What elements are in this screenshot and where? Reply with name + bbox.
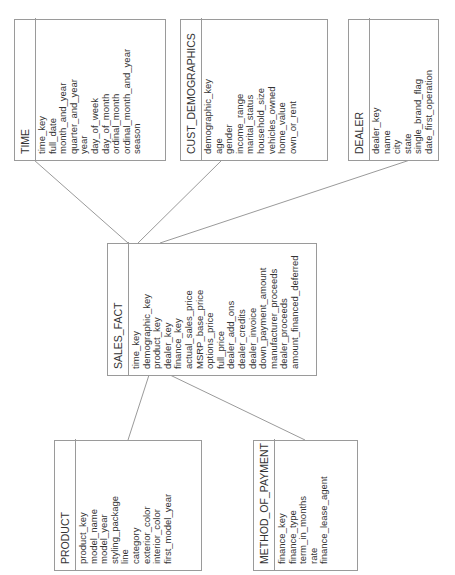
attribute: day_of_week xyxy=(90,18,101,154)
link-method-of-payment xyxy=(170,375,305,440)
attribute: name xyxy=(382,18,393,154)
attribute: product_key xyxy=(78,439,89,564)
link-cust-demographics xyxy=(138,160,222,243)
attribute: time_key xyxy=(37,18,48,154)
attribute-list: product_keymodel_namemodel_yearstyling_p… xyxy=(75,439,203,570)
link-product xyxy=(128,375,149,440)
attribute: quarter_and_year xyxy=(69,18,80,154)
entity-time[interactable]: TIME time_keyfull_datemonth_and_yearquar… xyxy=(14,19,166,161)
entity-title: TIME xyxy=(15,18,36,160)
entity-sales-fact[interactable]: SALES_FACT time_keydemographic_keyproduc… xyxy=(107,243,317,376)
entity-product[interactable]: PRODUCT product_keymodel_namemodel_years… xyxy=(54,440,202,571)
entity-dealer[interactable]: DEALER dealer_keynamecitystatesingle_bra… xyxy=(348,19,439,161)
entity-cust-demographics[interactable]: CUST_DEMOGRAPHICS demographic_keyagegend… xyxy=(180,19,328,161)
attribute: styling_package xyxy=(110,439,121,564)
attribute-list: time_keydemographic_keyproduct_keydealer… xyxy=(128,242,318,375)
attribute: household_size xyxy=(256,18,267,154)
attribute: date_first_operation xyxy=(424,18,435,154)
attribute: term_in_months xyxy=(298,439,309,564)
attribute-list: finance_keyfinance_typeterm_in_monthsrat… xyxy=(274,439,359,570)
link-dealer xyxy=(160,160,410,243)
attribute-list: time_keyfull_datemonth_and_yearquarter_a… xyxy=(35,18,167,160)
attribute: amount_financed_deferred xyxy=(290,242,301,369)
link-time xyxy=(34,160,128,243)
attribute: first_model_year xyxy=(163,439,174,564)
entity-title: SALES_FACT xyxy=(108,242,129,375)
attribute: category xyxy=(131,439,142,564)
entity-method-of-payment[interactable]: METHOD_OF_PAYMENT finance_keyfinance_typ… xyxy=(253,440,358,571)
attribute: actual_sales_price xyxy=(184,242,195,369)
attribute: own_or_rent xyxy=(288,18,299,154)
attribute: season xyxy=(132,18,143,154)
attribute: finance_key xyxy=(277,439,288,564)
attribute: dealer_key xyxy=(371,18,382,154)
attribute: time_key xyxy=(131,242,142,369)
attribute-list: demographic_keyagegenderincome_rangemari… xyxy=(201,18,329,160)
entity-title: DEALER xyxy=(349,18,370,160)
entity-title: CUST_DEMOGRAPHICS xyxy=(181,18,202,160)
entity-title: PRODUCT xyxy=(55,439,76,570)
entity-title: METHOD_OF_PAYMENT xyxy=(254,439,275,570)
attribute: demographic_key xyxy=(203,18,214,154)
attribute: dealer_credits xyxy=(237,242,248,369)
attribute-list: dealer_keynamecitystatesingle_brand_flag… xyxy=(369,18,440,160)
attribute: finance_lease_agent xyxy=(319,439,330,564)
